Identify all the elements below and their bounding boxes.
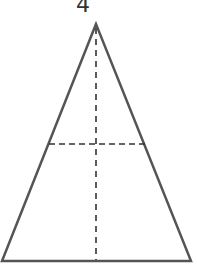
triangle-diagram: [0, 0, 197, 267]
